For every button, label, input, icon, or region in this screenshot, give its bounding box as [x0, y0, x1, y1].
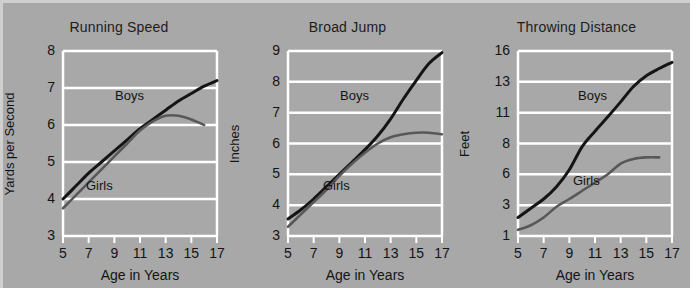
x-tick-label: 7	[530, 245, 558, 261]
y-tick-label: 3	[484, 196, 510, 212]
x-tick-label: 5	[274, 245, 302, 261]
x-tick-label: 11	[351, 245, 379, 261]
x-tick-label: 13	[152, 245, 180, 261]
y-tick-label: 8	[29, 42, 55, 58]
chart-throwing-distance: Throwing Distance Feet Age in Years Boys…	[460, 3, 693, 291]
x-tick-label: 5	[504, 245, 532, 261]
y-tick-label: 13	[484, 73, 510, 89]
x-tick-label: 17	[203, 245, 231, 261]
y-tick-label: 5	[254, 165, 280, 181]
x-tick-label: 9	[555, 245, 583, 261]
y-tick-label: 5	[29, 153, 55, 169]
y-tick-label: 8	[484, 135, 510, 151]
y-tick-label: 3	[254, 227, 280, 243]
series-label-girls-1: Girls	[323, 178, 350, 193]
y-tick-label: 7	[254, 104, 280, 120]
x-tick-label: 7	[300, 245, 328, 261]
y-tick-label: 9	[254, 42, 280, 58]
x-tick-label: 13	[377, 245, 405, 261]
figure-panel: Running Speed Yards per Second Age in Ye…	[0, 0, 690, 288]
y-tick-label: 4	[254, 196, 280, 212]
x-tick-label: 15	[402, 245, 430, 261]
series-label-girls-0: Girls	[86, 178, 113, 193]
chart-broad-jump: Broad Jump Inches Age in Years Boys Girl…	[235, 3, 460, 291]
series-label-boys-2: Boys	[578, 88, 607, 103]
y-tick-label: 7	[29, 79, 55, 95]
x-tick-label: 17	[658, 245, 686, 261]
y-tick-label: 6	[254, 135, 280, 151]
y-tick-label: 8	[254, 73, 280, 89]
y-tick-label: 6	[484, 165, 510, 181]
x-tick-label: 13	[607, 245, 635, 261]
y-tick-label: 4	[29, 190, 55, 206]
series-label-boys-1: Boys	[340, 88, 369, 103]
x-tick-label: 11	[126, 245, 154, 261]
x-tick-label: 15	[177, 245, 205, 261]
y-tick-label: 6	[29, 116, 55, 132]
series-label-girls-2: Girls	[573, 173, 600, 188]
x-tick-label: 5	[49, 245, 77, 261]
series-label-boys-0: Boys	[115, 88, 144, 103]
x-tick-label: 11	[581, 245, 609, 261]
x-tick-label: 9	[325, 245, 353, 261]
y-tick-label: 16	[484, 42, 510, 58]
x-tick-label: 17	[428, 245, 456, 261]
y-tick-label: 11	[484, 104, 510, 120]
x-tick-label: 9	[100, 245, 128, 261]
y-tick-label: 3	[29, 227, 55, 243]
x-tick-label: 7	[75, 245, 103, 261]
y-tick-label: 1	[484, 227, 510, 243]
x-tick-label: 15	[632, 245, 660, 261]
chart-running-speed: Running Speed Yards per Second Age in Ye…	[3, 3, 235, 291]
